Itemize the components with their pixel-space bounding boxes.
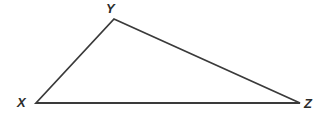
triangle-diagram <box>0 0 330 119</box>
vertex-label-x: X <box>17 96 26 109</box>
vertex-label-z: Z <box>304 97 312 110</box>
vertex-label-y: Y <box>106 2 115 15</box>
geometry-figure-canvas: Y X Z <box>0 0 330 119</box>
triangle-xyz-outline <box>36 19 300 103</box>
